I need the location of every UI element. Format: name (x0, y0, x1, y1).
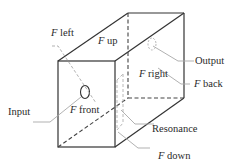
leader-resonance (121, 110, 154, 124)
label-output: Output (195, 56, 224, 67)
label-f-front: F front (70, 105, 99, 116)
top-right-edge (115, 13, 184, 61)
label-text: back (200, 78, 222, 89)
label-f-up: F up (98, 36, 118, 47)
label-f-right: F right (139, 69, 168, 80)
label-text: down (164, 150, 190, 161)
label-text: front (76, 104, 99, 115)
label-text: right (145, 68, 167, 79)
leader-f-down (118, 132, 150, 148)
label-f-down: F down (158, 151, 190, 162)
leader-output (153, 46, 194, 61)
output-port (148, 38, 156, 50)
label-input: Input (8, 107, 30, 118)
label-resonance: Resonance (152, 124, 197, 135)
label-f-back: F back (194, 79, 223, 90)
label-f-left: F left (51, 28, 74, 39)
label-text: left (57, 27, 74, 38)
label-text: up (104, 35, 117, 46)
